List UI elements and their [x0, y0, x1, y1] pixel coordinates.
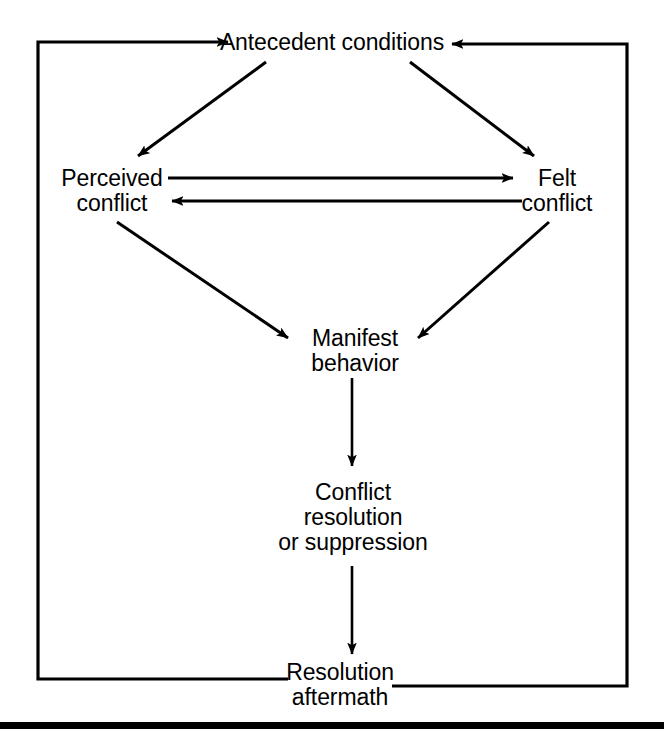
- edge-felt-to-manifest: [418, 222, 549, 338]
- node-manifest-behavior-line-1: Manifest: [235, 326, 475, 351]
- page-bottom-rule: [0, 722, 664, 729]
- node-perceived-conflict[interactable]: Perceived conflict: [0, 166, 224, 216]
- node-resolution-aftermath[interactable]: Resolution aftermath: [220, 660, 460, 710]
- node-felt-conflict-line-1: Felt: [477, 166, 637, 191]
- node-conflict-resolution[interactable]: Conflict resolution or suppression: [233, 480, 473, 555]
- node-manifest-behavior-line-2: behavior: [235, 351, 475, 376]
- node-perceived-conflict-line-2: conflict: [0, 191, 224, 216]
- node-antecedent-conditions[interactable]: Antecedent conditions: [0, 30, 664, 55]
- node-conflict-resolution-line-2: resolution: [233, 505, 473, 530]
- edge-antecedent-to-felt: [410, 62, 534, 156]
- node-antecedent-conditions-line-1: Antecedent conditions: [0, 30, 664, 55]
- node-manifest-behavior[interactable]: Manifest behavior: [235, 326, 475, 376]
- edge-perceived-to-manifest: [117, 222, 288, 338]
- node-conflict-resolution-line-1: Conflict: [233, 480, 473, 505]
- edge-antecedent-to-perceived: [138, 62, 266, 156]
- node-resolution-aftermath-line-1: Resolution: [220, 660, 460, 685]
- node-felt-conflict-line-2: conflict: [477, 191, 637, 216]
- node-perceived-conflict-line-1: Perceived: [0, 166, 224, 191]
- node-felt-conflict[interactable]: Felt conflict: [477, 166, 637, 216]
- node-resolution-aftermath-line-2: aftermath: [220, 685, 460, 710]
- node-conflict-resolution-line-3: or suppression: [233, 530, 473, 555]
- conflict-process-diagram: Antecedent conditions Perceived conflict…: [0, 0, 664, 731]
